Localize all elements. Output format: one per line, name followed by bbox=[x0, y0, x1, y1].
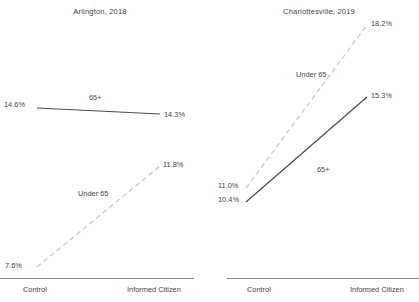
charlottesville-tick-informed-citizen: Informed Citizen bbox=[350, 285, 404, 294]
arlington-under65-end-value: 11.8% bbox=[163, 160, 183, 169]
charlottesville-series-label-under65: Under 65 bbox=[296, 70, 326, 79]
charlottesville-65plus-end-value: 15.3% bbox=[371, 91, 392, 100]
charlottesville-tick-control: Control bbox=[247, 285, 271, 294]
charlottesville-line-65plus bbox=[246, 97, 367, 202]
charlottesville-under65-end-value: 18.2% bbox=[371, 19, 392, 28]
arlington-tick-control: Control bbox=[23, 285, 47, 294]
arlington-line-65plus bbox=[37, 108, 160, 114]
arlington-65plus-start-value: 14.6% bbox=[4, 100, 25, 109]
arlington-under65-start-value: 7.6% bbox=[5, 261, 22, 270]
arlington-series-label-under65: Under 65 bbox=[78, 189, 108, 198]
arlington-tick-informed-citizen: Informed Citizen bbox=[127, 285, 181, 294]
arlington-line-under65 bbox=[37, 166, 160, 267]
panel-charlottesville: Charlottesville, 2019 11.0% 10.4% 18.2% … bbox=[219, 0, 419, 302]
charlottesville-plot-svg bbox=[219, 0, 419, 302]
slope-chart-figure: Arlington, 2018 14.6% 14.3% 7.6% 11.8% 6… bbox=[0, 0, 419, 302]
charlottesville-line-under65 bbox=[246, 25, 367, 188]
arlington-series-label-65plus: 65+ bbox=[89, 93, 102, 102]
arlington-plot-svg bbox=[0, 0, 200, 302]
charlottesville-65plus-start-value: 10.4% bbox=[218, 195, 239, 204]
arlington-65plus-end-value: 14.3% bbox=[164, 110, 185, 119]
panel-arlington: Arlington, 2018 14.6% 14.3% 7.6% 11.8% 6… bbox=[0, 0, 200, 302]
charlottesville-under65-start-value: 11.0% bbox=[218, 181, 238, 190]
charlottesville-series-label-65plus: 65+ bbox=[317, 165, 330, 174]
